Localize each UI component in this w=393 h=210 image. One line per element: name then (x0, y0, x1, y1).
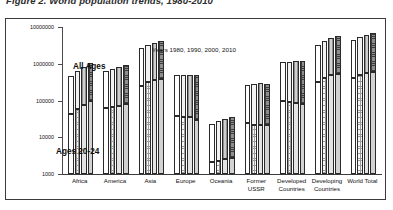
bar-segment-ages-20-24 (229, 158, 235, 174)
bar-segment-ages-20-24 (123, 104, 129, 174)
figure-container: Figure 2. World population trends, 1980-… (0, 0, 393, 210)
bar-segment-ages-20-24 (103, 108, 109, 174)
y-axis-tick-label: 100000 (36, 98, 54, 104)
bar-segment-ages-20-24 (287, 102, 293, 174)
y-axis-tick (58, 64, 63, 65)
y-axis-tick (58, 101, 63, 102)
bar-segment-ages-20-24 (216, 161, 222, 174)
bar-segment-ages-20-24 (68, 114, 74, 174)
bar-segment-all-ages (280, 62, 286, 101)
bar-segment-all-ages (264, 84, 270, 125)
bar-group (315, 27, 340, 174)
bar-segment-ages-20-24 (145, 82, 151, 174)
bar-segment-all-ages (335, 36, 341, 74)
bar (264, 27, 270, 174)
bar-segment-ages-20-24 (152, 80, 158, 174)
x-axis-category-labels: AfricaAmericaAsiaEuropeOceaniaFormer USS… (62, 177, 382, 201)
bar-segment-all-ages (103, 71, 109, 108)
bar-segment-all-ages (110, 69, 116, 107)
bar-segment-all-ages (181, 75, 187, 117)
bar-segment-all-ages (139, 48, 145, 86)
bar-segment-all-ages (222, 119, 228, 159)
bar-segment-ages-20-24 (139, 86, 145, 174)
bar (322, 27, 328, 174)
x-axis-category-label: Oceania (203, 177, 238, 185)
x-axis-category-label: Developed Countries (274, 177, 309, 192)
bar-segment-ages-20-24 (245, 123, 251, 174)
y-axis-tick (58, 137, 63, 138)
bar (370, 27, 376, 174)
y-axis-tick (58, 27, 63, 28)
bar-segment-ages-20-24 (81, 105, 87, 174)
bar-segment-ages-20-24 (75, 109, 81, 174)
bar-group (351, 27, 376, 174)
y-axis-tick-label: 1000 (42, 171, 54, 177)
bar (335, 27, 341, 174)
bar (328, 27, 334, 174)
bar-segment-ages-20-24 (88, 101, 94, 174)
bar-segment-all-ages (68, 76, 74, 114)
annotation-all-ages: All Ages (73, 62, 105, 71)
bar-segment-all-ages (322, 41, 328, 78)
bar (123, 27, 129, 174)
bar-segment-all-ages (216, 121, 222, 160)
bar-segment-all-ages (258, 83, 264, 125)
x-axis-category-label: Former USSR (239, 177, 274, 192)
bar-segment-ages-20-24 (116, 106, 122, 174)
bar-group (245, 27, 270, 174)
bar (245, 27, 251, 174)
bar-segment-ages-20-24 (110, 107, 116, 174)
chart-frame: 100010000100000100000010000000 Years 198… (5, 18, 386, 200)
y-axis-tick-label: 10000 (39, 134, 54, 140)
bar (287, 27, 293, 174)
bar (315, 27, 321, 174)
bar (251, 27, 257, 174)
bar-segment-ages-20-24 (174, 116, 180, 174)
bar-segment-all-ages (287, 62, 293, 102)
bar-segment-all-ages (229, 117, 235, 158)
bar-segment-all-ages (357, 37, 363, 74)
bar-segment-all-ages (187, 75, 193, 118)
figure-caption: Figure 2. World population trends, 1980-… (6, 0, 336, 9)
bar-segment-ages-20-24 (181, 117, 187, 174)
bar-segment-all-ages (174, 75, 180, 116)
legend-years-note: Years 1980, 1990, 2000, 2010 (152, 46, 236, 53)
bar (280, 27, 286, 174)
bar (103, 27, 109, 174)
x-axis-line (62, 174, 382, 175)
y-axis-tick-label: 1000000 (33, 61, 54, 67)
bar (293, 27, 299, 174)
bar-segment-all-ages (328, 38, 334, 75)
bar (145, 27, 151, 174)
bar-segment-ages-20-24 (158, 79, 164, 174)
x-axis-category-label: World Total (345, 177, 380, 185)
bar-segment-all-ages (209, 124, 215, 162)
bar-group (280, 27, 305, 174)
bar-segment-ages-20-24 (351, 78, 357, 174)
bar-segment-all-ages (351, 40, 357, 78)
bar-segment-ages-20-24 (280, 101, 286, 174)
bar (258, 27, 264, 174)
bar-segment-all-ages (194, 75, 200, 120)
bar (364, 27, 370, 174)
bar (139, 27, 145, 174)
bar-segment-all-ages (81, 67, 87, 105)
y-axis-tick (58, 174, 63, 175)
bar-segment-ages-20-24 (293, 103, 299, 174)
bar-segment-ages-20-24 (187, 117, 193, 174)
bar-segment-ages-20-24 (370, 72, 376, 174)
y-axis-tick-label: 10000000 (30, 24, 54, 30)
bar-segment-all-ages (75, 71, 81, 109)
bar-segment-all-ages (251, 84, 257, 126)
bar-segment-ages-20-24 (335, 74, 341, 174)
bar-segment-all-ages (245, 85, 251, 123)
bar-segment-all-ages (370, 33, 376, 72)
bar (116, 27, 122, 174)
x-axis-category-label: Asia (133, 177, 168, 185)
x-axis-category-label: Developing Countries (309, 177, 344, 192)
bar-segment-ages-20-24 (328, 75, 334, 174)
y-axis-labels: 100010000100000100000010000000 (6, 19, 58, 201)
bar-segment-ages-20-24 (300, 104, 306, 174)
bar-segment-ages-20-24 (209, 162, 215, 174)
bar-segment-all-ages (293, 61, 299, 103)
